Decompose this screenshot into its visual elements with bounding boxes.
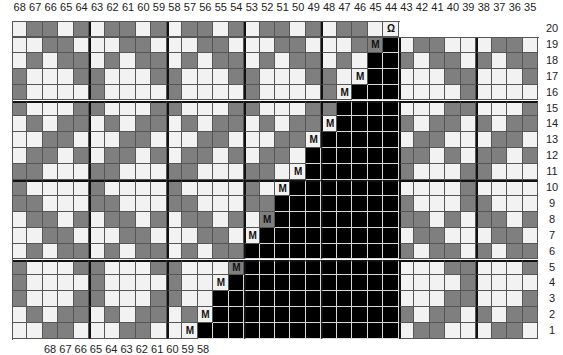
column-number: 46 (352, 1, 367, 13)
column-number: 55 (213, 1, 228, 13)
row-number: 1 (542, 324, 562, 336)
column-number: 56 (198, 1, 213, 13)
column-number: 47 (337, 1, 352, 13)
row-number: 11 (542, 165, 562, 177)
column-number: 63 (89, 1, 104, 13)
row-number: 12 (542, 149, 562, 161)
row-number: 2 (542, 308, 562, 320)
column-number: 59 (151, 1, 166, 13)
column-number: 66 (43, 1, 58, 13)
column-number: 65 (58, 1, 73, 13)
column-number: 43 (399, 1, 414, 13)
column-number: 68 (12, 1, 27, 13)
column-number: 54 (229, 1, 244, 13)
column-number: 39 (461, 1, 476, 13)
column-number: 61 (120, 1, 135, 13)
column-number: 42 (414, 1, 429, 13)
column-number: 53 (244, 1, 259, 13)
row-number: 17 (542, 70, 562, 82)
column-number: 62 (105, 1, 120, 13)
column-number: 52 (260, 1, 275, 13)
row-number: 16 (542, 86, 562, 98)
bottom-column-numbers-partial: 68 67 66 65 64 63 62 61 60 59 58 (44, 343, 209, 355)
column-number: 44 (383, 1, 398, 13)
row-number: 7 (542, 229, 562, 241)
column-number: 45 (368, 1, 383, 13)
row-number: 10 (542, 181, 562, 193)
column-number: 58 (167, 1, 182, 13)
row-number: 15 (542, 102, 562, 114)
row-number: 19 (542, 38, 562, 50)
column-number: 48 (321, 1, 336, 13)
column-number: 64 (74, 1, 89, 13)
column-number: 40 (445, 1, 460, 13)
column-number: 50 (290, 1, 305, 13)
column-number: 38 (476, 1, 491, 13)
row-number: 5 (542, 261, 562, 273)
column-number: 36 (507, 1, 522, 13)
column-number: 41 (430, 1, 445, 13)
row-number: 18 (542, 54, 562, 66)
row-number: 20 (542, 22, 562, 34)
column-number: 67 (27, 1, 42, 13)
column-number: 37 (492, 1, 507, 13)
grid-frame (12, 37, 539, 340)
row-number: 13 (542, 133, 562, 145)
row-number: 3 (542, 292, 562, 304)
row-number: 9 (542, 197, 562, 209)
row-number: 4 (542, 276, 562, 288)
column-number: 60 (136, 1, 151, 13)
column-number: 49 (306, 1, 321, 13)
row-number: 6 (542, 245, 562, 257)
column-number: 51 (275, 1, 290, 13)
column-number: 57 (182, 1, 197, 13)
row-number: 8 (542, 213, 562, 225)
row-number: 14 (542, 117, 562, 129)
grid-frame-top-row (12, 21, 400, 38)
column-number: 35 (523, 1, 538, 13)
